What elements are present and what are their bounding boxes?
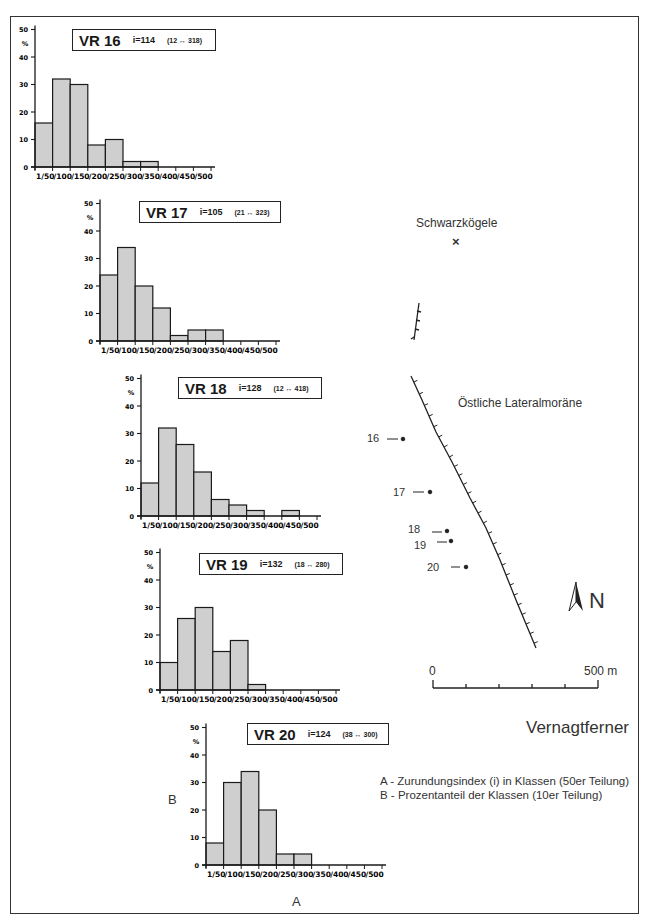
- legend-line-b: B - Prozentanteil der Klassen (10er Teil…: [380, 789, 602, 801]
- svg-text:20: 20: [190, 807, 200, 815]
- svg-text:50: 50: [84, 200, 94, 208]
- histogram-bar: [159, 428, 177, 516]
- svg-text:/100: /100: [54, 172, 72, 181]
- scale-end-label: 500 m: [584, 664, 617, 678]
- svg-text:0: 0: [88, 338, 93, 346]
- svg-text:/400: /400: [265, 521, 283, 530]
- svg-text:50: 50: [125, 375, 135, 383]
- histogram-bar: [118, 248, 136, 342]
- site-label-16: 16: [367, 432, 379, 444]
- histogram-bar: [170, 336, 188, 342]
- svg-text:/200: /200: [89, 172, 107, 181]
- histogram-bar: [35, 123, 53, 167]
- scale-start-label: 0: [429, 664, 436, 678]
- svg-text:/500: /500: [319, 695, 337, 704]
- svg-text:20: 20: [144, 632, 154, 640]
- svg-text:1/50: 1/50: [207, 870, 225, 879]
- svg-text:50: 50: [144, 549, 154, 557]
- histogram-bar: [105, 140, 123, 168]
- chart-title-vr16: VR 16 i=114 (12 ↔ 318): [72, 29, 216, 51]
- chart-title-vr19: VR 19 i=132 (18 ↔ 280): [199, 553, 343, 575]
- svg-text:/300: /300: [124, 172, 142, 181]
- histogram-bar: [259, 810, 277, 865]
- peak-marker-icon: ×: [452, 234, 460, 249]
- svg-text:/450: /450: [242, 346, 260, 355]
- histogram-bar: [141, 483, 159, 516]
- histogram-bar: [211, 500, 229, 517]
- svg-text:50: 50: [19, 26, 29, 34]
- histogram-bar: [282, 511, 300, 517]
- svg-text:/250: /250: [106, 172, 124, 181]
- svg-text:/100: /100: [225, 870, 243, 879]
- svg-text:40: 40: [84, 228, 94, 236]
- svg-text:/450: /450: [283, 521, 301, 530]
- svg-text:20: 20: [19, 109, 29, 117]
- histogram-bar: [230, 641, 248, 691]
- svg-text:/350: /350: [248, 521, 266, 530]
- histogram-bar: [176, 445, 194, 517]
- svg-text:40: 40: [125, 403, 135, 411]
- svg-text:/350: /350: [142, 172, 160, 181]
- histogram-bar: [241, 772, 259, 866]
- peak-label: Schwarzkögele: [416, 216, 497, 230]
- svg-text:1/50: 1/50: [142, 521, 160, 530]
- svg-text:0: 0: [129, 513, 134, 521]
- histogram-bar: [276, 854, 294, 865]
- histogram-bar: [248, 685, 266, 691]
- svg-text:/450: /450: [348, 870, 366, 879]
- svg-text:/500: /500: [194, 172, 212, 181]
- histogram-bar: [195, 608, 213, 691]
- svg-text:/300: /300: [249, 695, 267, 704]
- svg-text:20: 20: [84, 283, 94, 291]
- svg-text:/450: /450: [302, 695, 320, 704]
- histogram-bar: [160, 663, 178, 691]
- svg-text:/400: /400: [159, 172, 177, 181]
- svg-text:/200: /200: [260, 870, 278, 879]
- svg-text:10: 10: [125, 485, 135, 493]
- svg-text:/100: /100: [119, 346, 137, 355]
- svg-text:/400: /400: [224, 346, 242, 355]
- site-label-18: 18: [408, 523, 420, 535]
- svg-text:/500: /500: [300, 521, 318, 530]
- histogram-bar: [294, 854, 312, 865]
- svg-text:/300: /300: [230, 521, 248, 530]
- histogram-bar: [213, 652, 231, 691]
- histogram-bar: [247, 511, 265, 517]
- svg-text:/250: /250: [212, 521, 230, 530]
- svg-text:1/50: 1/50: [101, 346, 119, 355]
- svg-text:0: 0: [23, 164, 28, 172]
- histogram-bar: [229, 505, 247, 516]
- svg-text:/400: /400: [284, 695, 302, 704]
- site-label-17: 17: [393, 486, 405, 498]
- y-axis-label-b: B: [168, 792, 177, 807]
- svg-text:/450: /450: [177, 172, 195, 181]
- svg-text:40: 40: [190, 752, 200, 760]
- svg-text:40: 40: [19, 54, 29, 62]
- svg-text:10: 10: [19, 136, 29, 144]
- svg-text:0: 0: [148, 687, 153, 695]
- svg-text:30: 30: [190, 779, 200, 787]
- svg-text:/150: /150: [177, 521, 195, 530]
- svg-text:30: 30: [84, 255, 94, 263]
- histogram-bar: [100, 275, 118, 341]
- svg-text:10: 10: [84, 310, 94, 318]
- site-label-19: 19: [414, 539, 426, 551]
- histogram-bar: [206, 330, 224, 341]
- histogram-bar: [194, 472, 212, 516]
- histogram-bar: [70, 85, 88, 168]
- site-label-20: 20: [427, 561, 439, 573]
- svg-text:/200: /200: [195, 521, 213, 530]
- histogram-bar: [141, 162, 159, 168]
- svg-text:/300: /300: [295, 870, 313, 879]
- histogram-bar: [53, 79, 71, 167]
- svg-text:%: %: [22, 40, 29, 48]
- svg-text:/400: /400: [330, 870, 348, 879]
- svg-text:/350: /350: [267, 695, 285, 704]
- svg-text:%: %: [147, 563, 154, 571]
- chart-title-vr17: VR 17 i=105 (21 ↔ 323): [139, 201, 281, 223]
- north-label: N: [589, 588, 605, 614]
- svg-text:/200: /200: [154, 346, 172, 355]
- svg-text:/200: /200: [214, 695, 232, 704]
- svg-text:/500: /500: [365, 870, 383, 879]
- svg-text:30: 30: [19, 81, 29, 89]
